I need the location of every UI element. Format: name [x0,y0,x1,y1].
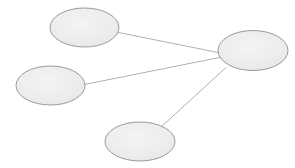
nodes-layer [16,8,288,161]
edge-top-left-to-hub[interactable] [119,33,221,54]
node-link-diagram [0,0,295,168]
node-bottom[interactable] [105,122,175,161]
graph-canvas [0,0,295,168]
node-left[interactable] [16,66,85,105]
node-top-left[interactable] [50,8,119,47]
edge-left-to-hub[interactable] [85,58,220,85]
node-hub-right[interactable] [218,31,288,71]
edges-layer [85,33,227,129]
edge-bottom-to-hub[interactable] [160,68,226,129]
